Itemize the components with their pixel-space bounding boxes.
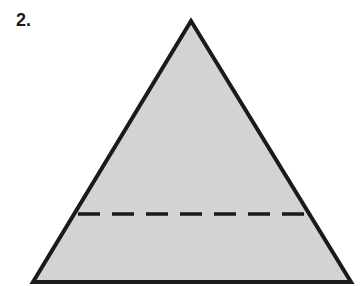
triangle-figure <box>0 0 364 286</box>
triangle-shape <box>33 21 351 282</box>
